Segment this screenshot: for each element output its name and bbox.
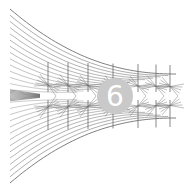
number-badge: 6 [97, 78, 133, 114]
fractal-funnel-graphic [0, 0, 188, 192]
badge-number: 6 [106, 80, 124, 113]
